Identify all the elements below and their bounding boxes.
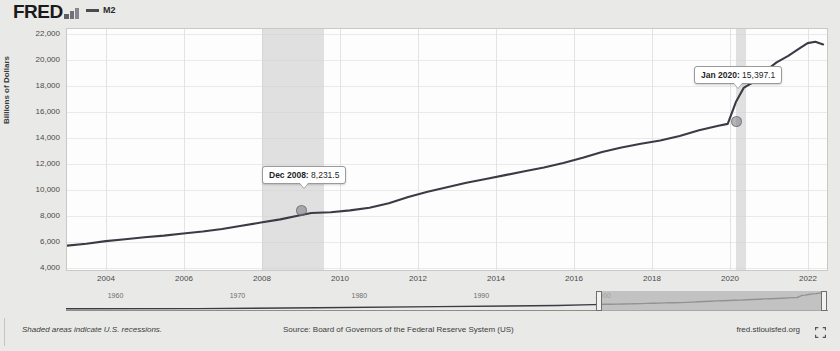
y-axis-tick: 8,000 [40,212,60,220]
x-axis-tick: 2004 [97,275,115,283]
y-axis-tick: 16,000 [36,108,60,116]
annotation-value-label: 15,397.1 [740,70,775,80]
legend-line-swatch [86,9,99,12]
annotation-date-label: Jan 2020: [701,70,740,80]
range-start-handle[interactable] [596,291,602,311]
fred-logo[interactable]: FRED [13,2,63,21]
range-selector-minimap[interactable]: 1960 1970 1980 1990 2000 [66,291,828,314]
x-axis-tick: 2008 [253,275,271,283]
x-axis-tick: 2020 [721,275,739,283]
x-axis: 2004 2006 2008 2010 2012 2014 2016 2018 … [66,272,828,288]
data-point-marker-dec-2008[interactable] [296,205,307,216]
annotation-dec-2008[interactable]: Dec 2008: 8,231.5 [262,166,346,184]
y-axis-tick: 12,000 [36,160,60,168]
y-axis-tick: 6,000 [40,238,60,246]
chart-plot-area[interactable] [66,28,828,271]
y-axis-tick: 14,000 [36,134,60,142]
minimap-tick: 1970 [230,292,246,299]
x-axis-tick: 2022 [799,275,817,283]
chart-footer: Shaded areas indicate U.S. recessions. S… [0,325,840,343]
legend-series-label: M2 [103,6,116,15]
minimap-tick: 1980 [352,292,368,299]
x-axis-tick: 2012 [409,275,427,283]
annotation-date-label: Dec 2008: [269,170,309,180]
y-axis-tick: 20,000 [36,56,60,64]
fred-url[interactable]: fred.stlouisfed.org [736,325,800,334]
x-axis-tick: 2006 [175,275,193,283]
chart-header: FRED M2 [0,0,840,24]
callout-tail-fill [733,82,743,88]
y-axis-title: Billions of Dollars [2,56,11,124]
x-axis-tick: 2014 [487,275,505,283]
y-axis-tick: 4,000 [40,264,60,272]
source-attribution: Source: Board of Governors of the Federa… [283,325,514,334]
recession-note: Shaded areas indicate U.S. recessions. [22,325,162,334]
annotation-jan-2020[interactable]: Jan 2020: 15,397.1 [694,66,782,84]
callout-tail-fill [299,182,309,188]
annotation-value-label: 8,231.5 [309,170,340,180]
range-end-handle[interactable] [821,291,827,311]
y-axis-tick: 10,000 [36,186,60,194]
minimap-tick: 1990 [473,292,489,299]
x-axis-tick: 2016 [565,275,583,283]
y-axis: Billions of Dollars 22,000 20,000 18,000… [0,28,66,271]
minimap-selected-range[interactable] [599,291,824,311]
y-axis-tick: 18,000 [36,82,60,90]
bar-chart-icon [64,6,80,19]
fred-chart-widget: FRED M2 Billions of Dollars 22,000 20,00… [0,0,840,351]
expand-fullscreen-icon[interactable] [815,324,826,335]
minimap-tick: 1960 [108,292,124,299]
x-axis-tick: 2018 [643,275,661,283]
data-point-marker-jan-2020[interactable] [731,116,742,127]
x-axis-tick: 2010 [331,275,349,283]
y-axis-tick: 22,000 [36,30,60,38]
chart-legend[interactable]: M2 [86,6,116,15]
